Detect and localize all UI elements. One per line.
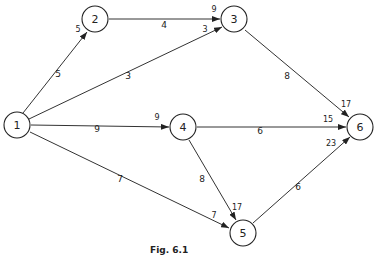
edge-5-6: 6 23 xyxy=(253,137,350,223)
node-label: 5 xyxy=(240,227,247,240)
node-label: 4 xyxy=(180,121,187,134)
network-diagram: 5 5 3 3 9 9 7 7 4 9 8 17 6 15 8 17 6 23 xyxy=(0,0,374,256)
edge-4-5: 8 17 xyxy=(189,140,242,220)
node-label: 6 xyxy=(357,121,364,134)
edge-4-6: 6 15 xyxy=(197,115,346,137)
edge-duration: 5 xyxy=(55,69,61,79)
edge-duration: 8 xyxy=(199,174,205,184)
node-label: 2 xyxy=(92,13,99,26)
edge-duration: 6 xyxy=(295,182,301,192)
edge-duration: 6 xyxy=(257,126,263,136)
arrival-label: 9 xyxy=(154,113,159,122)
node-3: 3 xyxy=(221,6,247,32)
arrival-label: 23 xyxy=(326,139,336,148)
node-5: 5 xyxy=(230,220,256,246)
node-label: 1 xyxy=(14,119,21,132)
edge-duration: 8 xyxy=(284,71,290,81)
arrival-label: 5 xyxy=(75,25,80,34)
node-label: 3 xyxy=(231,13,238,26)
node-2: 2 xyxy=(82,6,108,32)
figure-caption: Fig. 6.1 xyxy=(150,245,188,255)
arrival-label: 7 xyxy=(211,211,216,220)
edge-duration: 7 xyxy=(117,174,123,184)
edge-1-2: 5 5 xyxy=(23,25,87,114)
edge-duration: 9 xyxy=(94,124,100,134)
edge-3-6: 8 17 xyxy=(245,30,351,117)
node-6: 6 xyxy=(347,114,373,140)
edge-duration: 3 xyxy=(125,71,131,81)
edge-duration: 4 xyxy=(161,20,167,30)
edge-1-4: 9 9 xyxy=(31,113,169,135)
arrival-label: 17 xyxy=(232,203,242,212)
arrival-label: 17 xyxy=(341,100,351,109)
arrival-label: 3 xyxy=(202,25,207,34)
node-1: 1 xyxy=(4,112,30,138)
arrival-label: 9 xyxy=(211,5,216,14)
node-4: 4 xyxy=(170,114,196,140)
arrival-label: 15 xyxy=(323,115,333,124)
